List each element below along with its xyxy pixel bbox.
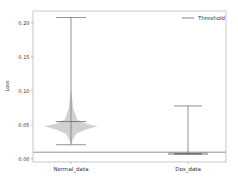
plot-frame xyxy=(33,11,226,162)
y-tick-label: 0.15 xyxy=(18,54,29,60)
y-tick-label: 0.20 xyxy=(18,20,29,26)
legend-threshold-label: Threshold xyxy=(197,15,225,21)
y-axis-label: Loss xyxy=(4,80,10,91)
legend: Threshold xyxy=(182,15,225,21)
y-tick-label: 0.00 xyxy=(18,156,29,162)
violin-chart: 0.000.050.100.150.20 Normal_dataDos_data… xyxy=(0,0,238,178)
x-tick-label: Normal_data xyxy=(53,166,88,173)
violins xyxy=(45,18,208,155)
x-tick-label: Dos_data xyxy=(175,166,201,173)
y-axis: 0.000.050.100.150.20 xyxy=(18,20,33,162)
x-axis: Normal_dataDos_data xyxy=(53,162,200,173)
chart-canvas: 0.000.050.100.150.20 Normal_dataDos_data… xyxy=(0,0,238,178)
y-tick-label: 0.05 xyxy=(18,122,29,128)
y-tick-label: 0.10 xyxy=(18,88,29,94)
